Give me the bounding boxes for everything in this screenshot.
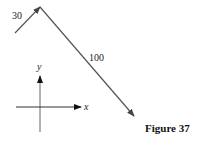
figure-37-diagram: 30 100 y x Figure 37	[0, 0, 218, 141]
y-axis-label: y	[37, 62, 41, 72]
vector-100-label: 100	[89, 53, 104, 63]
x-axis-label: x	[84, 102, 88, 112]
vector-100-arrow	[40, 7, 134, 116]
vector-diagram	[0, 0, 218, 141]
figure-caption: Figure 37	[145, 123, 190, 134]
vector-30-label: 30	[12, 11, 22, 21]
